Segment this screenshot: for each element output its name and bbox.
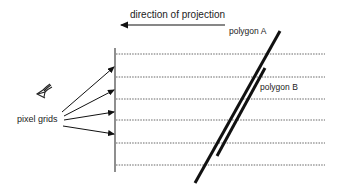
- polygon-b-label: polygon B: [260, 82, 298, 92]
- pixel-grid-arrows: [62, 67, 114, 134]
- diagram-graphics: [0, 0, 338, 194]
- projection-diagram: direction of projection polygon A polygo…: [0, 0, 338, 194]
- polygon-a-label: polygon A: [229, 26, 266, 36]
- eye-icon: [37, 84, 52, 98]
- direction-of-projection-label: direction of projection: [130, 9, 225, 20]
- pixel-grids-label: pixel grids: [17, 114, 58, 124]
